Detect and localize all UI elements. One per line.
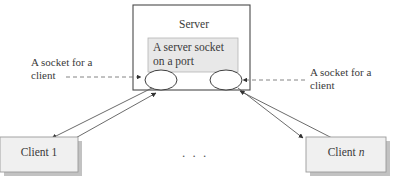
left-socket-note: A socket for a client xyxy=(31,56,123,82)
socket-ellipse-left xyxy=(145,70,177,90)
socket-architecture-diagram: Server A server socket on a port A socke… xyxy=(0,0,393,184)
link-left-inbound xyxy=(72,93,156,140)
client-first-label: Client 1 xyxy=(2,146,76,160)
client-last-prefix: Client xyxy=(328,146,359,158)
client-last-index: n xyxy=(359,146,365,158)
right-socket-note: A socket for a client xyxy=(310,66,393,92)
client-last-label: Client n xyxy=(308,146,384,160)
link-right-inbound xyxy=(240,91,334,139)
link-left-outbound xyxy=(52,88,152,138)
socket-ellipse-right xyxy=(210,70,242,90)
link-right-outbound xyxy=(238,88,303,138)
server-socket-label: A server socket on a port xyxy=(153,41,237,68)
server-label: Server xyxy=(164,18,224,32)
clients-ellipsis: . . . xyxy=(170,145,220,160)
